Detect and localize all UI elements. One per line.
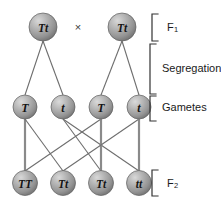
f2-node-genotype-label: TT (18, 178, 33, 190)
diagram-canvas: TtTt TtTt TTTtTttt F1SegregationGametesF… (0, 0, 221, 210)
f1-label-subscript: 1 (174, 25, 178, 34)
edges-gametes-to-f2 (25, 119, 139, 171)
f2-node-1: TT (13, 171, 38, 196)
bracket-f2 (152, 170, 158, 196)
edge-f1-right-to-gamete-4 (122, 41, 139, 95)
gametes-label: Gametes (162, 101, 207, 113)
f2-node-2: Tt (51, 171, 76, 196)
gamete-node-3: T (89, 95, 113, 119)
f2-label: F (167, 177, 174, 189)
gamete-node-1: T (13, 95, 37, 119)
edge-f1-right-to-gamete-3 (101, 41, 122, 95)
gamete-node-4: t (127, 95, 151, 119)
gametes-row: TtTt (13, 95, 151, 119)
gamete-node-genotype-label: T (97, 101, 105, 115)
f2-node-genotype-label: Tt (58, 178, 69, 190)
edge-f1-left-to-gamete-2 (43, 41, 63, 95)
bracket-segregation (150, 44, 156, 94)
f1-node-genotype-label: Tt (38, 22, 49, 34)
bracket-f1 (152, 14, 158, 41)
f2-node-4: tt (127, 171, 152, 196)
edge-gamete-1-to-f2-2 (25, 119, 63, 171)
f1-generation-row: TtTt (29, 13, 136, 41)
side-label-group: F1SegregationGametesF2 (162, 21, 221, 190)
f1-node-1: Tt (29, 13, 57, 41)
f1-node-2: Tt (108, 13, 136, 41)
segregation-label: Segregation (162, 62, 221, 74)
f1-label: F (167, 21, 174, 33)
genetics-segregation-diagram: TtTt TtTt TTTtTttt F1SegregationGametesF… (0, 0, 221, 210)
bracket-group (150, 14, 158, 196)
cross-symbol: × (75, 21, 81, 33)
gamete-node-2: t (51, 95, 75, 119)
cross-symbol-group: × (75, 21, 81, 33)
f2-label-subscript: 2 (174, 181, 178, 190)
f2-node-genotype-label: tt (136, 178, 143, 190)
f1-node-genotype-label: Tt (117, 22, 128, 34)
f2-node-3: Tt (89, 171, 114, 196)
f2-node-genotype-label: Tt (96, 178, 107, 190)
edge-gamete-3-to-f2-1 (25, 119, 101, 171)
edges-f1-to-gametes (25, 41, 139, 95)
edge-f1-left-to-gamete-1 (25, 41, 43, 95)
gamete-node-genotype-label: T (21, 101, 29, 115)
f2-generation-row: TTTtTttt (13, 171, 152, 196)
edge-gamete-2-to-f2-3 (63, 119, 101, 171)
